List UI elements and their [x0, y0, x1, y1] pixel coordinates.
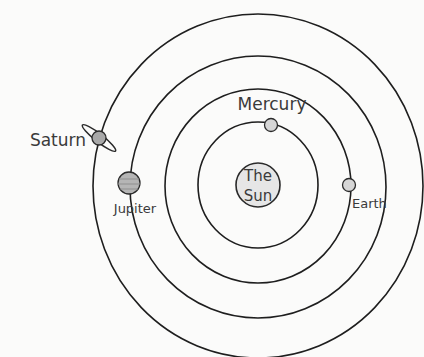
sun-label-line2: Sun: [244, 187, 273, 205]
jupiter-label: Jupiter: [113, 201, 157, 216]
sun-label-line1: The: [243, 167, 272, 185]
solar-system-diagram: The Sun Mercury Earth Jupiter Saturn: [0, 0, 424, 357]
planet-mercury: Mercury: [238, 94, 307, 132]
saturn-label: Saturn: [30, 130, 86, 150]
mercury-label: Mercury: [238, 94, 307, 114]
earth-label: Earth: [352, 196, 387, 211]
sun: The Sun: [236, 163, 280, 207]
planet-jupiter: Jupiter: [113, 172, 157, 216]
planet-saturn: Saturn: [30, 122, 118, 154]
